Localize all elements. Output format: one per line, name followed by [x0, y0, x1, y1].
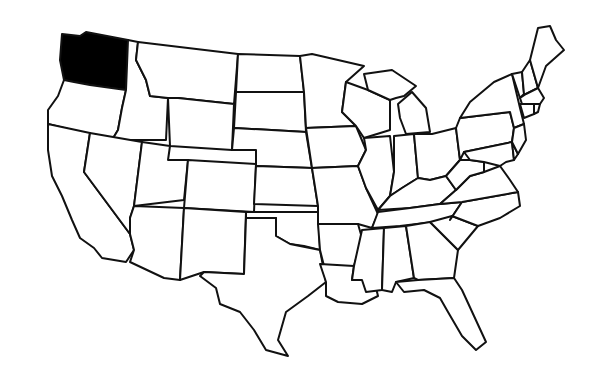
state-colorado[interactable]	[184, 160, 256, 212]
state-maine[interactable]	[530, 26, 564, 88]
state-new-mexico[interactable]	[180, 208, 246, 280]
state-nebraska[interactable]	[232, 128, 312, 168]
state-montana[interactable]	[136, 42, 238, 104]
state-kansas[interactable]	[254, 166, 318, 206]
state-north-dakota[interactable]	[236, 54, 304, 92]
state-south-dakota[interactable]	[234, 92, 306, 132]
state-utah[interactable]	[134, 142, 188, 206]
state-iowa[interactable]	[306, 126, 366, 168]
state-arizona[interactable]	[130, 206, 184, 280]
states	[48, 26, 564, 356]
us-map	[0, 0, 602, 379]
state-florida[interactable]	[396, 278, 486, 350]
state-wyoming[interactable]	[168, 98, 234, 150]
state-rhode-island[interactable]	[534, 104, 540, 114]
